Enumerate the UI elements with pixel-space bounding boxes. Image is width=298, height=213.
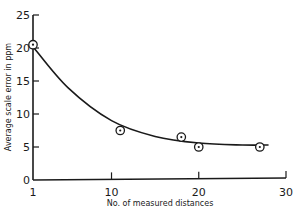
data-point-marker: [177, 133, 185, 141]
y-tick-label: 5: [23, 141, 30, 154]
chart-canvas: 05101520251102030 No. of measured distan…: [0, 0, 298, 213]
x-tick-label: 1: [30, 186, 37, 199]
fitted-curve: [33, 47, 269, 145]
x-tick-label: 30: [279, 186, 293, 199]
x-axis-line: [33, 178, 286, 180]
x-tick-label: 10: [105, 186, 119, 199]
y-tick-label: 25: [16, 9, 30, 22]
y-axis-title: Average scale error in ppm: [4, 43, 13, 151]
x-axis-title: No. of measured distances: [107, 199, 214, 208]
y-tick-label: 20: [16, 42, 30, 55]
curve-path: [33, 47, 269, 145]
x-tick-label: 20: [192, 186, 206, 199]
axis-labels: No. of measured distances Average scale …: [4, 43, 213, 208]
axes: 05101520251102030: [16, 9, 293, 199]
data-point-marker: [256, 143, 264, 151]
data-point-marker: [116, 126, 124, 134]
y-tick-label: 10: [16, 108, 30, 121]
y-tick-label: 15: [16, 75, 30, 88]
data-point-marker: [29, 41, 37, 49]
data-point-marker: [195, 143, 203, 151]
